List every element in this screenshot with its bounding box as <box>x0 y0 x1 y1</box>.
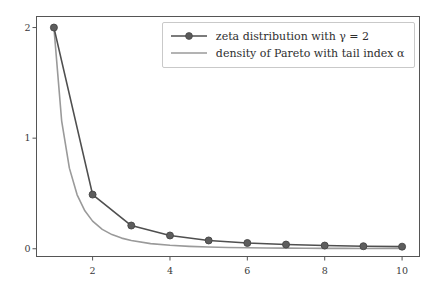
chart-legend: zeta distribution with γ = 2 density of … <box>162 22 415 68</box>
gamma-symbol: γ <box>339 30 346 43</box>
legend-item-zeta: zeta distribution with γ = 2 <box>170 28 405 45</box>
data-point-marker <box>166 232 173 239</box>
legend-label-zeta-text: zeta distribution with <box>216 30 339 43</box>
chart-figure: 012246810 zeta distribution with γ = 2 d… <box>0 0 436 297</box>
legend-label-pareto-text: density of Pareto with tail index <box>216 47 397 60</box>
legend-label-pareto: density of Pareto with tail index α <box>216 47 405 60</box>
data-point-marker <box>50 24 57 31</box>
x-axis-ticks <box>93 257 402 261</box>
data-point-marker <box>321 242 328 249</box>
legend-item-pareto: density of Pareto with tail index α <box>170 45 405 62</box>
x-tick-label: 10 <box>396 266 408 276</box>
legend-swatch-zeta-icon <box>170 29 208 43</box>
data-point-marker <box>360 243 367 250</box>
y-tick-label: 0 <box>6 244 31 254</box>
legend-label-zeta: zeta distribution with γ = 2 <box>216 30 369 43</box>
y-axis-ticks <box>33 28 37 249</box>
x-tick-label: 8 <box>322 266 328 276</box>
y-tick-label: 1 <box>6 133 31 143</box>
data-point-marker <box>205 237 212 244</box>
alpha-symbol: α <box>397 47 404 60</box>
data-point-marker <box>244 240 251 247</box>
data-point-marker <box>283 241 290 248</box>
data-point-marker <box>89 191 96 198</box>
x-tick-label: 2 <box>90 266 96 276</box>
legend-label-zeta-tail: = 2 <box>346 30 369 43</box>
data-point-marker <box>128 222 135 229</box>
x-tick-label: 4 <box>167 266 173 276</box>
y-tick-label: 2 <box>6 23 31 33</box>
x-tick-label: 6 <box>244 266 250 276</box>
data-point-marker <box>399 243 406 250</box>
legend-swatch-pareto-icon <box>170 46 208 60</box>
